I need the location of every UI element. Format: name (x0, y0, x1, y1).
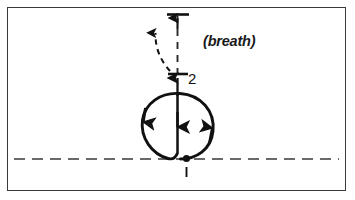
breath-annotation-label: (breath) (203, 33, 255, 49)
breath-curve-arrow (155, 33, 170, 71)
figure-root: (breath) 2 (0, 0, 355, 200)
stroke-number-2-label: 2 (188, 70, 196, 87)
start-point-dot (183, 155, 190, 162)
diagram-canvas (0, 0, 355, 200)
left-arc-arrowhead (143, 108, 145, 122)
